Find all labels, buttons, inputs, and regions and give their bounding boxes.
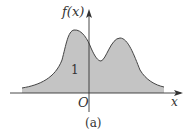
area-under-curve [22, 30, 164, 93]
x-axis-label: x [171, 96, 178, 108]
origin-label: O [78, 96, 89, 109]
probability-density-figure: f(x) x O 1 (a) [0, 0, 187, 137]
caption: (a) [85, 117, 102, 129]
area-label: 1 [71, 64, 79, 76]
y-axis-label: f(x) [62, 5, 84, 18]
